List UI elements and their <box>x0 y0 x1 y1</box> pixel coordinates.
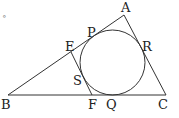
small-circle-marker: ∘ <box>2 12 6 21</box>
label-c: C <box>158 98 168 111</box>
label-r: R <box>142 40 152 53</box>
label-p: P <box>87 26 96 39</box>
geometry-diagram: ∘ A B C E F P R S Q <box>0 0 179 118</box>
label-a: A <box>121 1 130 14</box>
label-e: E <box>65 40 75 53</box>
label-q: Q <box>106 98 117 111</box>
label-s: S <box>73 74 82 87</box>
label-b: B <box>1 98 11 111</box>
label-f: F <box>88 98 97 111</box>
